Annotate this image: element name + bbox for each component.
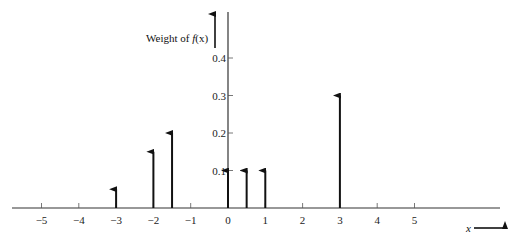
y-tick-label: 0.1 — [212, 165, 226, 177]
y-tick-label: 0.2 — [212, 127, 226, 139]
x-tick-label: −4 — [73, 214, 85, 226]
x-axis-label: x — [465, 222, 471, 234]
y-tick-label: 0.4 — [212, 52, 226, 64]
y-axis-label: Weight of f(x) — [146, 32, 208, 45]
x-tick-label: 4 — [374, 214, 380, 226]
x-tick-label: −5 — [36, 214, 48, 226]
x-tick-label: 1 — [263, 214, 269, 226]
x-tick-label: 3 — [337, 214, 343, 226]
axis-labels: Weight of f(x)x — [146, 14, 505, 234]
x-tick-label: 5 — [412, 214, 418, 226]
x-tick-label: −1 — [185, 214, 197, 226]
x-tick-label: 0 — [225, 214, 231, 226]
x-axis: −5−4−3−2−1012345 — [12, 203, 500, 226]
weight-function-chart: −5−4−3−2−1012345 0.10.20.30.4 Weight of … — [0, 0, 516, 238]
x-tick-label: −2 — [148, 214, 160, 226]
y-tick-label: 0.3 — [212, 90, 226, 102]
x-tick-label: 2 — [300, 214, 306, 226]
x-tick-label: −3 — [110, 214, 122, 226]
